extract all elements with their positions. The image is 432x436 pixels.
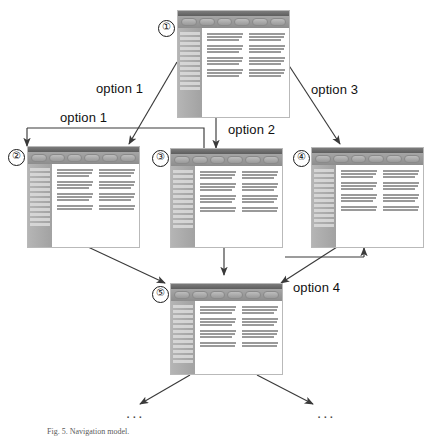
window-toolbar[interactable] xyxy=(171,289,282,301)
toolbar-button[interactable] xyxy=(315,155,331,163)
page-mockup-4[interactable] xyxy=(311,147,424,248)
text-line xyxy=(200,324,232,326)
node-marker-4: ④ xyxy=(293,150,310,167)
window-content xyxy=(195,301,282,374)
window-toolbar[interactable] xyxy=(171,154,282,166)
sidebar-line xyxy=(180,42,200,45)
text-line xyxy=(242,345,276,347)
sidebar-line xyxy=(30,223,50,226)
text-line xyxy=(200,174,234,176)
sidebar-line xyxy=(30,188,50,191)
window-toolbar[interactable] xyxy=(178,16,289,28)
toolbar-button[interactable] xyxy=(49,154,65,162)
text-line xyxy=(99,208,133,210)
toolbar-button[interactable] xyxy=(31,154,47,162)
text-line xyxy=(207,57,243,59)
edge-1-to-4 xyxy=(288,64,340,144)
sidebar-line xyxy=(314,204,334,207)
paragraph-gap xyxy=(99,178,135,180)
sidebar-line xyxy=(30,203,50,206)
text-line xyxy=(200,171,236,173)
toolbar-button[interactable] xyxy=(404,155,420,163)
sidebar-line xyxy=(173,340,193,343)
text-line xyxy=(207,39,239,41)
toolbar-button[interactable] xyxy=(174,156,190,164)
text-line xyxy=(200,189,232,191)
window-sidebar[interactable] xyxy=(171,301,195,374)
paragraph-gap xyxy=(207,54,243,56)
page-mockup-5[interactable] xyxy=(170,283,283,375)
toolbar-button[interactable] xyxy=(210,156,226,164)
sidebar-line xyxy=(180,52,200,55)
toolbar-button[interactable] xyxy=(234,18,250,26)
sidebar-line xyxy=(173,350,193,353)
toolbar-button[interactable] xyxy=(67,154,83,162)
window-sidebar[interactable] xyxy=(171,166,195,247)
sidebar-line xyxy=(30,213,50,216)
window-content xyxy=(52,164,139,247)
toolbar-button[interactable] xyxy=(217,18,233,26)
text-line xyxy=(57,172,91,174)
toolbar-button[interactable] xyxy=(245,291,261,299)
text-line xyxy=(99,175,131,177)
text-line xyxy=(383,173,417,175)
toolbar-button[interactable] xyxy=(181,18,197,26)
toolbar-button[interactable] xyxy=(199,18,215,26)
toolbar-button[interactable] xyxy=(333,155,349,163)
edge-label-option4: option 4 xyxy=(293,280,340,295)
toolbar-button[interactable] xyxy=(351,155,367,163)
sidebar-line xyxy=(314,184,334,187)
toolbar-button[interactable] xyxy=(192,291,208,299)
toolbar-button[interactable] xyxy=(270,18,286,26)
text-line xyxy=(57,208,91,210)
text-column xyxy=(341,170,377,243)
text-line xyxy=(249,69,285,71)
text-column xyxy=(200,171,236,243)
text-line xyxy=(99,205,135,207)
text-line xyxy=(242,336,274,338)
toolbar-button[interactable] xyxy=(386,155,402,163)
text-line xyxy=(57,196,91,198)
toolbar-button[interactable] xyxy=(227,291,243,299)
text-line xyxy=(200,183,236,185)
edge-4-to-5 xyxy=(281,247,337,283)
text-line xyxy=(57,193,93,195)
toolbar-button[interactable] xyxy=(368,155,384,163)
window-toolbar[interactable] xyxy=(28,152,139,164)
sidebar-line xyxy=(314,199,334,202)
window-toolbar[interactable] xyxy=(312,153,423,165)
window-sidebar[interactable] xyxy=(178,28,202,117)
text-line xyxy=(200,321,234,323)
window-sidebar[interactable] xyxy=(312,165,336,247)
figure-caption: Fig. 5. Navigation model. xyxy=(47,427,129,436)
paragraph-gap xyxy=(242,339,278,341)
text-line xyxy=(200,186,234,188)
edge-label-option1-diagonal: option 1 xyxy=(96,81,143,96)
toolbar-button[interactable] xyxy=(245,156,261,164)
paragraph-gap xyxy=(383,179,419,181)
toolbar-button[interactable] xyxy=(252,18,268,26)
sidebar-line xyxy=(314,169,334,172)
toolbar-button[interactable] xyxy=(210,291,226,299)
toolbar-button[interactable] xyxy=(227,156,243,164)
node-marker-5: ⑤ xyxy=(152,286,169,303)
toolbar-button[interactable] xyxy=(174,291,190,299)
toolbar-button[interactable] xyxy=(102,154,118,162)
paragraph-gap xyxy=(57,178,93,180)
window-content xyxy=(195,166,282,247)
window-sidebar[interactable] xyxy=(28,164,52,247)
toolbar-button[interactable] xyxy=(263,156,279,164)
page-mockup-2[interactable] xyxy=(27,146,140,248)
page-mockup-3[interactable] xyxy=(170,148,283,248)
sidebar-line xyxy=(173,320,193,323)
page-mockup-1[interactable] xyxy=(177,10,290,118)
sidebar-line xyxy=(30,183,50,186)
toolbar-button[interactable] xyxy=(120,154,136,162)
text-line xyxy=(242,330,278,332)
toolbar-button[interactable] xyxy=(84,154,100,162)
toolbar-button[interactable] xyxy=(192,156,208,164)
sidebar-line xyxy=(173,225,193,228)
window-content xyxy=(202,28,289,117)
text-line xyxy=(249,51,281,53)
toolbar-button[interactable] xyxy=(263,291,279,299)
